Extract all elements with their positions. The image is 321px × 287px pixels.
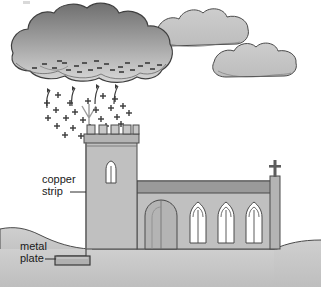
tower-crenellation-group [87, 125, 139, 134]
nave-window-1 [190, 202, 206, 243]
copper-strip-label-line1: copper [42, 173, 76, 185]
nave-window-2 [218, 202, 234, 243]
copper-strip-label-line2: strip [42, 185, 63, 197]
east-end-pillar [270, 176, 280, 249]
smudge-mark [23, 1, 30, 4]
tower-window [106, 161, 116, 183]
metal-plate-label-line2: plate [20, 252, 44, 264]
metal-plate-body [55, 256, 90, 265]
church-tower [84, 125, 139, 249]
ground-right-hill [274, 240, 321, 287]
metal-plate-label-line1: metal [20, 240, 47, 252]
nave-roof-band [137, 181, 277, 193]
nave-window-3 [246, 202, 262, 243]
ground-base [0, 249, 321, 287]
lightning-protection-diagram: copper strip metal plate [0, 0, 321, 287]
tower-body [86, 142, 137, 249]
diagram-canvas: copper strip metal plate [0, 0, 321, 287]
tower-parapet-band [84, 134, 139, 143]
